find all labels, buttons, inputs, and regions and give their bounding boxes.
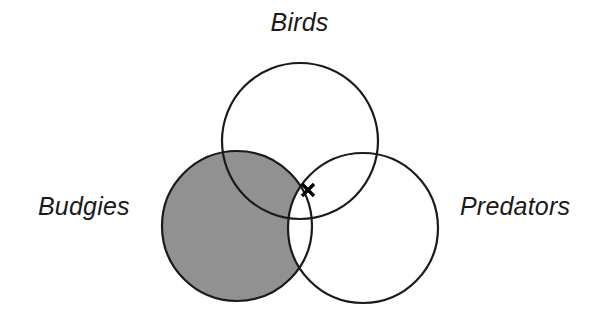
set-label-predators: Predators: [460, 194, 570, 219]
venn-diagram-canvas: [0, 0, 599, 323]
set-label-birds: Birds: [0, 10, 599, 35]
venn-diagram-figure: Birds Budgies Predators: [0, 0, 599, 323]
set-label-budgies: Budgies: [38, 194, 130, 219]
